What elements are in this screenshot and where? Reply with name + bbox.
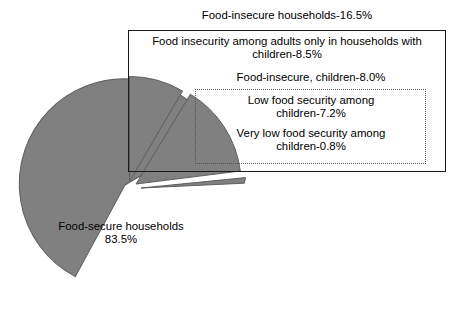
pie-chart-figure: Food-insecure households-16.5% Food inse… [0, 0, 460, 324]
label-food-insecure-children: Food-insecure, children-8.0% [196, 71, 426, 84]
label-food-insecurity-adults-only: Food insecurity among adults only in hou… [134, 35, 440, 62]
label-low-food-security-children: Low food security among children-7.2% [196, 94, 426, 121]
label-food-insecure-households: Food-insecure households-16.5% [128, 9, 446, 22]
label-very-low-food-security-children: Very low food security among children-0.… [196, 127, 426, 154]
label-food-secure-households: Food-secure households 83.5% [36, 220, 206, 247]
